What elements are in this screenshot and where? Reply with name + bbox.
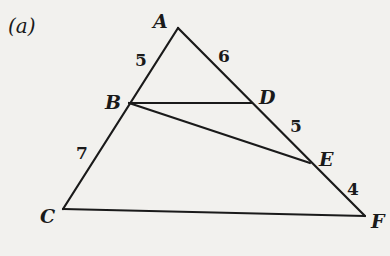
part-label: (a) (8, 16, 36, 36)
vertex-label-b: B (105, 93, 121, 112)
side-AF (178, 28, 365, 216)
vertex-label-d: D (259, 88, 275, 107)
length-label-bc: 7 (76, 145, 88, 162)
length-label-ad: 6 (218, 48, 230, 65)
length-label-ab: 5 (135, 52, 147, 69)
side-CF (63, 209, 365, 216)
vertex-label-f: F (371, 212, 385, 231)
side-AC (63, 28, 178, 209)
length-label-de: 5 (290, 118, 302, 135)
geometry-figure: (a) A B C D E F 5 6 7 5 4 (0, 0, 390, 256)
length-label-ef: 4 (347, 181, 359, 198)
vertex-label-a: A (153, 12, 168, 31)
vertex-label-c: C (40, 207, 55, 226)
vertex-label-e: E (319, 150, 333, 169)
triangle-diagram (0, 0, 390, 256)
